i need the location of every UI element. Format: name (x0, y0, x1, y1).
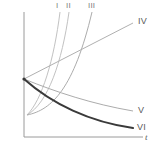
curve-label-I: I (56, 1, 58, 10)
curve-label-II: II (66, 1, 71, 10)
curve-path-VI (24, 79, 133, 128)
curve-label-V: V (138, 106, 144, 115)
curve-label-IV: IV (138, 17, 147, 26)
common-origin-point (22, 77, 25, 80)
curve-label-III: III (88, 1, 95, 10)
figure-container: I II III IV V VI t (0, 0, 166, 160)
axes-group (24, 12, 143, 137)
x-axis-label: t (145, 133, 148, 142)
curve-path-IV (24, 23, 133, 79)
curve-path-II (27, 12, 69, 115)
curve-label-VI: VI (137, 123, 146, 132)
curve-path-V (24, 79, 133, 111)
curves-group (24, 12, 133, 128)
